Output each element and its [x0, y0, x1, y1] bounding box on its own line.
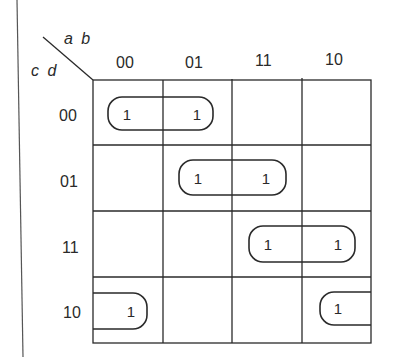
cell-10-10: 1: [334, 301, 342, 316]
row-label-00: 00: [59, 108, 77, 124]
column-label-01: 01: [185, 55, 203, 71]
row-label-01: 01: [60, 174, 78, 190]
row-variables-label: c d: [31, 63, 58, 79]
column-label-11: 11: [255, 53, 272, 69]
column-label-00: 00: [116, 55, 134, 71]
column-label-10: 10: [325, 52, 343, 68]
row-label-10: 10: [63, 305, 81, 321]
margin-line: [17, 0, 23, 357]
group-row10-wrap-left: [93, 293, 147, 329]
cell-11-10: 1: [334, 237, 342, 252]
cell-00-01: 1: [193, 107, 201, 122]
column-variables-label: a b: [64, 31, 92, 47]
cell-10-00: 1: [127, 304, 135, 319]
group-row10-wrap-right: [320, 292, 371, 325]
cell-00-00: 1: [123, 107, 131, 122]
cell-01-01: 1: [194, 171, 202, 186]
cell-01-11: 1: [262, 171, 270, 186]
cell-11-11: 1: [264, 237, 272, 252]
row-label-11: 11: [62, 240, 79, 256]
